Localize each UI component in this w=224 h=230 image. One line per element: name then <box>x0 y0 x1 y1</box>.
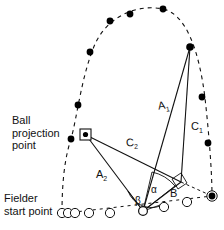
segment-label-base: C <box>191 120 199 132</box>
ball-dot <box>68 136 75 143</box>
segment-label-b: B <box>170 187 177 202</box>
fielder-circle <box>105 208 114 217</box>
ball-dot <box>205 140 212 147</box>
ball-projection-point-marker <box>80 129 91 140</box>
caption-line: Ball <box>12 114 60 127</box>
segment-label-sub: 2 <box>103 175 107 182</box>
segment-label-a1: A1 <box>157 98 170 115</box>
ball-projection-point-caption: Ball projection point <box>12 114 60 152</box>
caption-line: start point <box>4 205 52 218</box>
ball-dot <box>87 49 94 56</box>
ball-dot <box>186 43 194 51</box>
fielder-start-point-caption: Fielder start point <box>4 192 52 217</box>
fielder-circle <box>70 208 79 217</box>
fielder-circle <box>182 197 191 206</box>
ball-trajectory-path <box>62 8 212 213</box>
segment-c1-line <box>181 47 190 182</box>
ball-dot <box>75 102 82 109</box>
caption-line: Fielder <box>4 192 52 205</box>
ball-dot <box>107 18 114 25</box>
angle-label-beta: β <box>135 195 141 207</box>
ball-trajectory-dots <box>68 6 212 147</box>
segment-label-sub: 1 <box>199 127 203 134</box>
caption-line: point <box>12 139 60 152</box>
ball-dot <box>199 94 206 101</box>
angle-label-alpha: α <box>151 184 157 196</box>
diagram-canvas: Ball projection point Fielder start poin… <box>0 0 224 230</box>
segment-label-c1: C1 <box>191 120 203 135</box>
fielder-circle <box>84 208 93 217</box>
segment-label-sub: 2 <box>134 143 138 150</box>
fielder-circle <box>159 202 168 211</box>
segment-label-base: B <box>170 187 177 199</box>
caption-line: projection <box>12 127 60 140</box>
ball-dot <box>160 6 167 13</box>
ball-dot <box>127 11 134 18</box>
ball-landing-point-marker <box>207 191 217 201</box>
fielder-vertex-marker <box>139 207 148 216</box>
segment-label-c2: C2 <box>125 136 138 152</box>
segment-label-a2: A2 <box>96 168 107 183</box>
